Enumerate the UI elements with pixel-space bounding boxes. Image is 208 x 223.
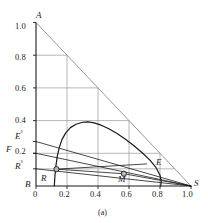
axis-label-F: F bbox=[6, 145, 12, 154]
vertex-label-B: B bbox=[25, 180, 31, 189]
vertex-label-A: A bbox=[36, 11, 42, 20]
series-tie-line-R-E bbox=[56, 164, 146, 169]
data-point-R bbox=[54, 167, 59, 172]
axis-label-E-naught: E° bbox=[15, 130, 23, 141]
y-tick-1.0: 1.0 bbox=[15, 22, 26, 31]
vertex-label-S: S bbox=[194, 179, 199, 188]
x-tick-0.6: 0.6 bbox=[121, 190, 132, 199]
series-tie-line-E0-S bbox=[36, 142, 191, 186]
x-tick-1.0: 1.0 bbox=[182, 190, 193, 199]
axis-label-R-naught: R° bbox=[15, 160, 23, 171]
point-label-M: M bbox=[118, 175, 126, 184]
y-tick-0.4: 0.4 bbox=[15, 116, 26, 125]
triangular-phase-diagram: 1.0 0.8 0.6 0.4 0.2 0 0.2 0.4 0.6 0.8 1.… bbox=[0, 0, 208, 223]
series-hypotenuse-AS bbox=[36, 23, 191, 187]
x-tick-0.8: 0.8 bbox=[152, 190, 163, 199]
point-label-E: E bbox=[156, 158, 162, 167]
series-tie-line-R0-R-M-E-S bbox=[36, 169, 191, 186]
y-tick-0.2: 0.2 bbox=[15, 147, 26, 156]
x-tick-0.4: 0.4 bbox=[90, 190, 101, 199]
x-tick-0: 0 bbox=[33, 190, 37, 199]
point-label-R: R bbox=[41, 174, 47, 183]
x-tick-0.2: 0.2 bbox=[59, 190, 70, 199]
plot-canvas bbox=[0, 0, 208, 223]
y-tick-0.6: 0.6 bbox=[15, 84, 26, 93]
y-tick-0.8: 0.8 bbox=[15, 53, 26, 62]
figure-caption: (a) bbox=[98, 209, 107, 217]
